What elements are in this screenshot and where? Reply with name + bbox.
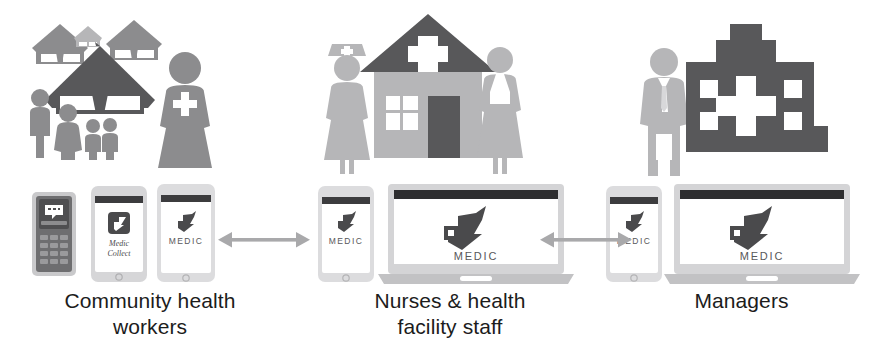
diagram-canvas: Medic Collect MEDIC: [0, 0, 883, 355]
column-managers: MEDIC MEDIC: [600, 0, 883, 355]
double-arrow-icon: [218, 232, 310, 248]
health-facility-scene: [300, 0, 600, 180]
double-arrow-icon: [540, 232, 632, 248]
medic-label: MEDIC: [454, 250, 498, 262]
feature-phone[interactable]: [32, 192, 76, 276]
medic-app-icon: [108, 212, 130, 234]
managers-devices: MEDIC MEDIC: [600, 180, 883, 288]
caption-community-health-workers: Community health workers: [0, 288, 300, 339]
caption-managers: Managers: [600, 288, 883, 314]
manager-person: [640, 48, 688, 176]
caption-nurses-health-facility-staff: Nurses & health facility staff: [300, 288, 600, 339]
villager-man: [30, 89, 50, 158]
column-nurses-health-facility-staff: MEDIC MEDIC: [300, 0, 600, 355]
villager-child-2: [102, 118, 118, 160]
column-community-health-workers: Medic Collect MEDIC: [0, 0, 300, 355]
nurse-cap-icon: [328, 44, 366, 56]
connector-nurses-to-managers: [540, 222, 632, 258]
medic-label: MEDIC: [329, 236, 363, 246]
nurse-with-cap: [324, 44, 370, 174]
health-facility-building: [360, 14, 496, 158]
connector-chw-to-nurses: [218, 222, 310, 258]
medic-collect-label-line1: Medic: [108, 239, 129, 248]
community-health-worker: [158, 52, 212, 168]
caption-line: workers: [0, 314, 300, 340]
villager-child-1: [85, 119, 101, 160]
medic-label: MEDIC: [740, 250, 784, 262]
medic-collect-label-line2: Collect: [107, 249, 131, 258]
hut-back-small: [74, 26, 102, 47]
caption-line: Community health: [0, 288, 300, 314]
smartphone-medic[interactable]: MEDIC: [157, 184, 215, 282]
caption-line: Managers: [600, 288, 883, 314]
medic-label: MEDIC: [169, 236, 203, 246]
hospital-building: [686, 24, 828, 152]
caption-line: facility staff: [300, 314, 600, 340]
laptop-medic[interactable]: MEDIC: [664, 184, 860, 284]
smartphone-medic-collect[interactable]: Medic Collect: [91, 186, 147, 282]
hut-back-right: [106, 20, 162, 60]
caption-line: Nurses & health: [300, 288, 600, 314]
village-scene: [0, 0, 300, 180]
hospital-scene: [600, 0, 883, 180]
smartphone-medic[interactable]: MEDIC: [318, 186, 374, 282]
